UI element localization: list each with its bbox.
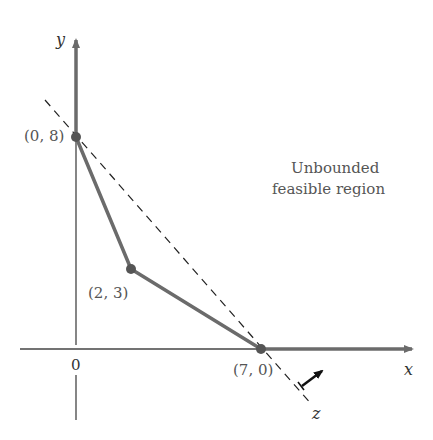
vertex-label-2-3: (2, 3) [88, 284, 128, 302]
region-label-line2: feasible region [272, 180, 385, 198]
vertex-label-7-0: (7, 0) [233, 361, 273, 379]
feasible-boundary [76, 137, 261, 349]
diagram-canvas [0, 0, 433, 440]
objective-line [45, 100, 312, 405]
objective-line-label: z [312, 404, 320, 423]
vertex-2-3 [126, 264, 136, 274]
vertex-0-8 [71, 132, 81, 142]
y-axis-label: y [56, 30, 65, 49]
origin-label: 0 [71, 356, 81, 374]
vertex-7-0 [256, 344, 266, 354]
vertex-label-0-8: (0, 8) [24, 127, 64, 145]
direction-arrow [302, 371, 322, 386]
region-label-line1: Unbounded [291, 159, 379, 177]
x-axis-label: x [404, 360, 413, 379]
